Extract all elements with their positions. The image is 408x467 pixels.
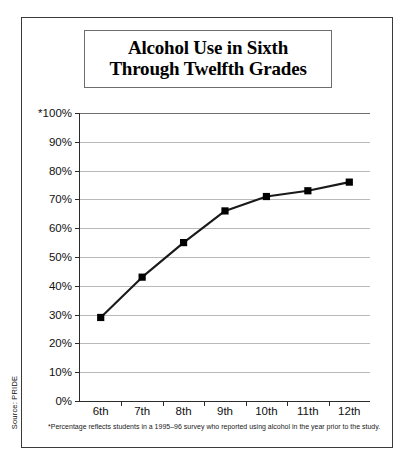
- y-axis-label-0: 0%: [55, 395, 72, 407]
- chart-footnote: *Percentage reflects students in a 1995–…: [48, 422, 378, 431]
- x-axis-label-10th: 10th: [255, 405, 277, 417]
- source-credit: Source: PRIDE: [10, 363, 19, 443]
- y-axis-label-100: *100%: [38, 107, 72, 119]
- x-axis-label-12th: 12th: [338, 405, 360, 417]
- series-markers: [97, 179, 353, 322]
- series-line: [101, 182, 350, 317]
- y-axis-label-90: 90%: [49, 136, 72, 148]
- chart-canvas: 0%10%20%30%40%50%60%70%80%90%*100% 6th7t…: [22, 18, 392, 447]
- x-tick-1: [121, 401, 122, 406]
- x-tick-2: [163, 401, 164, 406]
- y-axis-label-60: 60%: [49, 222, 72, 234]
- y-axis-label-20: 20%: [49, 337, 72, 349]
- x-tick-4: [246, 401, 247, 406]
- x-axis-label-8th: 8th: [176, 405, 192, 417]
- x-tick-6: [329, 401, 330, 406]
- data-series-alcohol-use: [80, 113, 370, 401]
- data-point-8th: [180, 239, 187, 246]
- figure-page: Source: PRIDE Alcohol Use in Sixth Throu…: [0, 0, 408, 467]
- data-point-7th: [139, 274, 146, 281]
- data-point-9th: [221, 207, 228, 214]
- data-point-12th: [346, 179, 353, 186]
- data-point-6th: [97, 314, 104, 321]
- x-tick-5: [287, 401, 288, 406]
- data-point-11th: [304, 187, 311, 194]
- y-tick-0: [75, 401, 80, 402]
- x-axis-label-6th: 6th: [93, 405, 109, 417]
- y-axis-label-10: 10%: [49, 366, 72, 378]
- y-axis-label-30: 30%: [49, 309, 72, 321]
- plot-area: 0%10%20%30%40%50%60%70%80%90%*100% 6th7t…: [79, 113, 370, 402]
- y-axis-label-50: 50%: [49, 251, 72, 263]
- y-axis-label-70: 70%: [49, 193, 72, 205]
- x-tick-3: [204, 401, 205, 406]
- figure-frame: Alcohol Use in Sixth Through Twelfth Gra…: [21, 17, 393, 448]
- x-axis-label-11th: 11th: [297, 405, 319, 417]
- x-axis-label-7th: 7th: [134, 405, 150, 417]
- y-axis-label-80: 80%: [49, 165, 72, 177]
- x-axis-label-9th: 9th: [217, 405, 233, 417]
- data-point-10th: [263, 193, 270, 200]
- y-axis-label-40: 40%: [49, 280, 72, 292]
